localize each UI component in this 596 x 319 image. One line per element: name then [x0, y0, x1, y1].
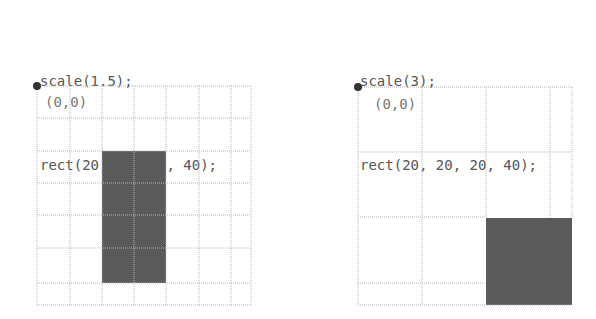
origin-dot	[354, 83, 362, 91]
scaled-grid-diagram	[0, 0, 596, 319]
origin-label: (0,0)	[374, 96, 416, 112]
scaled-rectangle	[486, 218, 572, 305]
